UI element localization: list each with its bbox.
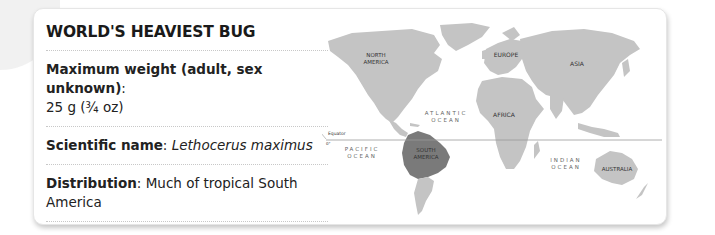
- madagascar-shape: [534, 141, 540, 159]
- label-south-america-2: AMERICA: [413, 154, 438, 160]
- label-north-america: NORTH: [366, 52, 385, 58]
- greenland-shape: [440, 23, 490, 51]
- central-america-shape: [388, 119, 408, 137]
- label-atlantic-ocean-2: OCEAN: [431, 117, 461, 123]
- fact-value: 25 g (¾ oz): [46, 99, 124, 115]
- label-australia: AUSTRALIA: [602, 166, 633, 172]
- new-zealand-shape: [636, 183, 648, 199]
- scandinavia-shape: [502, 27, 520, 41]
- indonesia-shape: [578, 123, 620, 137]
- fact-value: Lethocerus maximus: [172, 137, 313, 153]
- label-atlantic-ocean: ATLANTIC: [425, 110, 468, 116]
- label-pacific-ocean-2: OCEAN: [347, 153, 377, 159]
- india-shape: [550, 95, 564, 119]
- card-title: WORLD'S HEAVIEST BUG: [46, 23, 328, 51]
- south-america-south-shape: [414, 177, 434, 215]
- africa-shape: [476, 77, 544, 169]
- fact-label: Maximum weight (adult, sex unknown): [46, 61, 262, 96]
- fact-separator: :: [121, 80, 126, 96]
- fact-label: Distribution: [46, 175, 137, 191]
- fact-card: WORLD'S HEAVIEST BUG Maximum weight (adu…: [33, 8, 667, 225]
- equator-degree: 0°: [326, 141, 331, 146]
- uk-shape: [482, 49, 488, 59]
- fact-row-distribution: Distribution: Much of tropical South Ame…: [46, 165, 328, 222]
- fact-label: Scientific name: [46, 137, 163, 153]
- label-europe: EUROPE: [494, 51, 519, 58]
- world-map: Equator 0° NORTH AMERICA EUROPE ASIA AFR…: [322, 19, 662, 219]
- japan-shape: [622, 59, 630, 77]
- fact-row-weight: Maximum weight (adult, sex unknown): 25 …: [46, 51, 328, 127]
- label-indian-ocean: INDIAN: [550, 157, 581, 163]
- label-indian-ocean-2: OCEAN: [551, 164, 581, 170]
- caribbean-shape: [410, 123, 420, 127]
- equator-label: Equator: [328, 131, 346, 136]
- fact-separator: :: [137, 175, 146, 191]
- label-pacific-ocean: PACIFIC: [345, 146, 380, 152]
- fact-separator: :: [163, 137, 172, 153]
- north-america-shape: [328, 29, 442, 123]
- label-south-america: SOUTH: [416, 147, 435, 153]
- label-asia: ASIA: [570, 60, 585, 67]
- label-africa: AFRICA: [493, 111, 516, 118]
- fact-row-scientific-name: Scientific name: Lethocerus maximus: [46, 127, 328, 165]
- label-north-america-2: AMERICA: [363, 59, 388, 65]
- fact-panel: WORLD'S HEAVIEST BUG Maximum weight (adu…: [46, 23, 328, 222]
- equator-leader: [322, 127, 326, 139]
